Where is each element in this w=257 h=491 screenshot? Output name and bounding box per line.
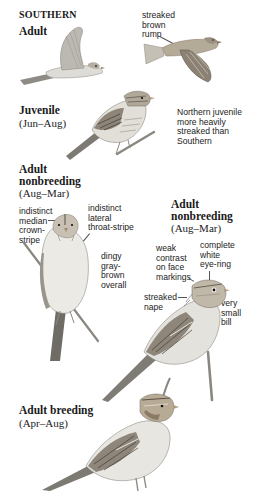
label-line: Adult xyxy=(171,198,233,210)
annotation-juvenile-note: Northern juvenile more heavily streaked … xyxy=(177,108,242,146)
section-title: SOUTHERN xyxy=(19,9,77,20)
label-juvenile: Juvenile xyxy=(19,104,60,116)
label-line: nonbreeding xyxy=(171,210,233,222)
bird-adult-nonbreeding-front-illustration xyxy=(20,213,100,363)
label-adult-nonbreeding-front: Adult nonbreeding xyxy=(19,163,81,187)
label-line: nonbreeding xyxy=(19,175,81,187)
label-line: Adult xyxy=(19,163,81,175)
annotation-eye-ring: complete white eye-ring xyxy=(200,241,235,270)
dates-adult-nonbreeding-side: (Aug–Mar) xyxy=(171,222,221,234)
label-adult-nonbreeding-side: Adult nonbreeding xyxy=(171,198,233,222)
dates-juvenile: (Jun–Aug) xyxy=(19,117,66,129)
bird-adult-flight-illustration xyxy=(18,22,108,87)
bird-juvenile-illustration xyxy=(62,84,162,164)
bird-adult-flight-rump-illustration xyxy=(142,30,224,86)
bird-adult-breeding-illustration xyxy=(40,392,190,491)
annotation-line: Southern xyxy=(177,137,242,147)
annotation-line: eye-ring xyxy=(200,260,235,270)
dates-adult-nonbreeding-front: (Aug–Mar) xyxy=(19,187,69,199)
